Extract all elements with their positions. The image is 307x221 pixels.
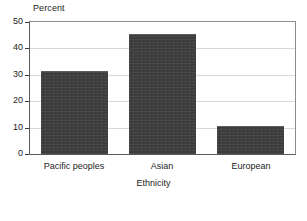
bar (217, 126, 284, 154)
bar-series (30, 22, 295, 154)
y-axis-tick-label: 0 (18, 148, 23, 159)
y-axis-tick-label: 30 (13, 69, 23, 80)
y-axis-tick-label: 20 (13, 95, 23, 106)
bar-chart: Percent 01020304050 Pacific peoplesAsian… (0, 0, 307, 221)
y-axis-tick: 10 (0, 128, 29, 129)
y-axis-tick-mark (25, 22, 29, 23)
bar (129, 34, 196, 154)
bar (41, 71, 108, 154)
y-axis-tick: 40 (0, 48, 29, 49)
x-axis-title: Ethnicity (0, 178, 307, 188)
x-axis-category-labels: Pacific peoplesAsianEuropean (30, 160, 295, 174)
y-axis-unit-label: Percent (33, 3, 65, 13)
y-axis-tick-label: 50 (13, 16, 23, 27)
y-axis-tick-mark (25, 48, 29, 49)
y-axis-tick: 20 (0, 101, 29, 102)
y-axis-tick-mark (25, 75, 29, 76)
y-axis-tick-mark (25, 101, 29, 102)
x-axis-category-label: European (207, 160, 295, 172)
y-axis-tick-label: 40 (13, 42, 23, 53)
y-axis-tick-mark (25, 128, 29, 129)
x-axis-category-label: Asian (118, 160, 206, 172)
y-axis-tick-mark (25, 154, 29, 155)
y-axis-tick: 50 (0, 22, 29, 23)
y-axis-tick: 30 (0, 75, 29, 76)
x-axis-category-label: Pacific peoples (30, 160, 118, 172)
y-axis-tick: 0 (0, 154, 29, 155)
y-axis-tick-label: 10 (13, 122, 23, 133)
